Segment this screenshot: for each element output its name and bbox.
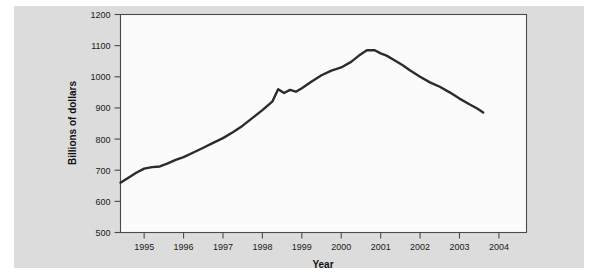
y-axis-title: Billions of dollars: [67, 81, 78, 165]
y-tick-label: 1100: [91, 41, 110, 51]
x-tick-label: 2003: [449, 242, 469, 252]
x-tick-label: 1997: [213, 242, 233, 252]
y-tick-label: 900: [95, 103, 110, 113]
y-axis-ticks: 500600700800900100011001200: [90, 10, 120, 238]
y-tick-label: 700: [95, 166, 110, 176]
x-tick-label: 2002: [410, 242, 430, 252]
y-tick-label: 1000: [90, 72, 110, 82]
y-tick-label: 600: [95, 197, 110, 207]
line-chart: 500600700800900100011001200 199519961997…: [0, 0, 598, 280]
x-axis-title: Year: [312, 259, 333, 270]
y-tick-label: 500: [95, 228, 110, 238]
y-tick-label: 800: [95, 135, 110, 145]
x-tick-label: 1999: [292, 242, 312, 252]
x-tick-label: 2001: [371, 242, 391, 252]
x-tick-label: 1996: [174, 242, 194, 252]
x-tick-label: 2000: [331, 242, 351, 252]
x-tick-label: 2004: [489, 242, 509, 252]
x-tick-label: 1998: [252, 242, 272, 252]
figure-container: 500600700800900100011001200 199519961997…: [0, 0, 598, 280]
y-tick-label: 1200: [90, 10, 110, 20]
x-axis-ticks: 1995199619971998199920002001200220032004: [134, 233, 509, 252]
x-tick-label: 1995: [134, 242, 154, 252]
plot-area: [121, 15, 527, 233]
